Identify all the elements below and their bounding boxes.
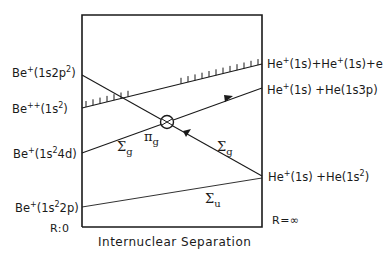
term-sigma-g-left: Σg bbox=[117, 140, 133, 157]
term-sigma-g-right: Σg bbox=[217, 140, 233, 157]
curve-crossing-marker bbox=[161, 116, 174, 129]
term-sigma-u: Σu bbox=[205, 192, 221, 209]
term-pi-g: πg bbox=[144, 130, 159, 147]
label-be-1s22p: Be+(1s22p) bbox=[15, 201, 79, 215]
label-be-1s2p2: Be+(1s2p2) bbox=[12, 66, 76, 80]
axis-right-label: R=∞ bbox=[272, 215, 300, 226]
label-be-1s24d: Be+(1s24d) bbox=[13, 147, 77, 161]
label-be-1s2: Be++(1s2) bbox=[12, 102, 68, 116]
label-he-ground: He+(1s) +He(1s2) bbox=[268, 170, 369, 184]
continuum-hatching bbox=[86, 59, 258, 107]
correlation-diagram bbox=[0, 0, 383, 258]
sigma-u-curve bbox=[82, 178, 262, 207]
label-he-excited: He+(1s) +He(1s3p) bbox=[267, 83, 378, 97]
label-he-ionized: He+(1s)+He+(1s)+e bbox=[267, 57, 383, 71]
x-axis-title: Internuclear Separation bbox=[98, 236, 251, 248]
axis-left-label: R:0 bbox=[50, 223, 70, 234]
ionization-continuum-curve bbox=[82, 64, 262, 108]
